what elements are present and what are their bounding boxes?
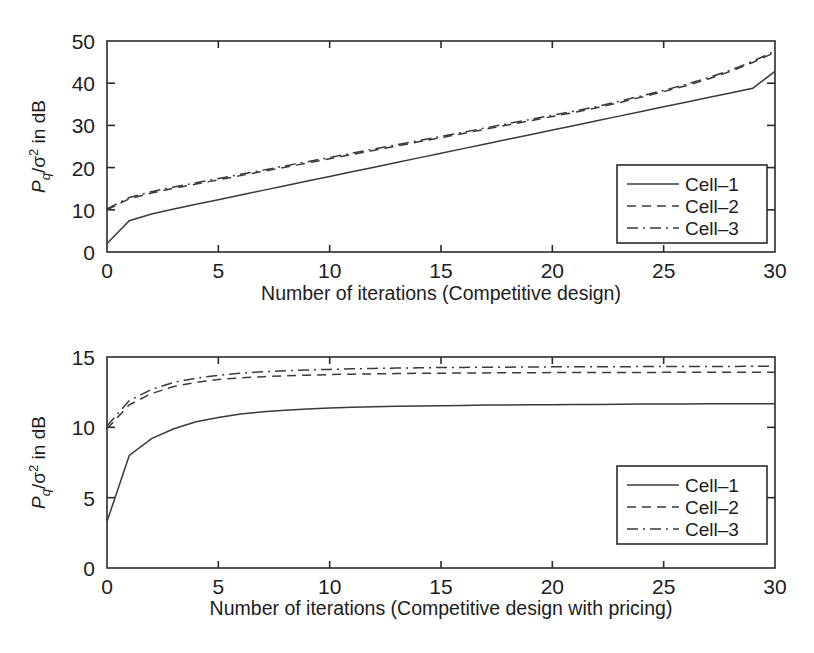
ylabel-P: P bbox=[28, 180, 49, 193]
x-tick-label: 25 bbox=[652, 259, 675, 282]
x-tick-label: 10 bbox=[318, 575, 341, 598]
ylabel-tail: in dB bbox=[28, 100, 49, 149]
legend-label: Cell–2 bbox=[685, 196, 739, 217]
x-tick-label: 15 bbox=[429, 259, 452, 282]
x-axis-title: Number of iterations (Competitive design… bbox=[261, 282, 621, 304]
legend-label: Cell–1 bbox=[685, 475, 739, 496]
x-tick-label: 15 bbox=[429, 575, 452, 598]
legend: Cell–1Cell–2Cell–3 bbox=[617, 165, 767, 243]
x-tick-label: 5 bbox=[212, 575, 224, 598]
ylabel-P: P bbox=[28, 496, 49, 509]
legend-label: Cell–1 bbox=[685, 174, 739, 195]
ylabel-sup-2: 2 bbox=[26, 465, 41, 472]
figure-background bbox=[0, 0, 814, 653]
y-tick-label: 40 bbox=[72, 72, 95, 95]
y-tick-label: 20 bbox=[72, 157, 95, 180]
y-tick-label: 0 bbox=[83, 241, 95, 264]
y-tick-label: 5 bbox=[83, 487, 95, 510]
y-tick-label: 0 bbox=[83, 557, 95, 580]
x-tick-label: 0 bbox=[101, 575, 113, 598]
x-tick-label: 30 bbox=[763, 575, 786, 598]
legend: Cell–1Cell–2Cell–3 bbox=[617, 466, 767, 544]
x-tick-label: 5 bbox=[212, 259, 224, 282]
x-tick-label: 25 bbox=[652, 575, 675, 598]
legend-label: Cell–3 bbox=[685, 519, 739, 540]
x-tick-label: 20 bbox=[541, 259, 564, 282]
x-tick-label: 20 bbox=[541, 575, 564, 598]
figure-canvas: 05101520253001020304050Number of iterati… bbox=[0, 0, 814, 653]
x-tick-label: 0 bbox=[101, 259, 113, 282]
y-tick-label: 30 bbox=[72, 114, 95, 137]
y-tick-label: 10 bbox=[72, 199, 95, 222]
y-tick-label: 50 bbox=[72, 30, 95, 53]
y-tick-label: 15 bbox=[72, 346, 95, 369]
x-axis-title: Number of iterations (Competitive design… bbox=[210, 597, 673, 619]
x-tick-label: 30 bbox=[763, 259, 786, 282]
ylabel-sigma: σ bbox=[28, 156, 49, 168]
x-tick-label: 10 bbox=[318, 259, 341, 282]
ylabel-tail: in dB bbox=[28, 416, 49, 465]
y-tick-label: 10 bbox=[72, 416, 95, 439]
legend-label: Cell–3 bbox=[685, 218, 739, 239]
ylabel-sigma: σ bbox=[28, 472, 49, 484]
ylabel-sup-2: 2 bbox=[26, 149, 41, 156]
legend-label: Cell–2 bbox=[685, 497, 739, 518]
